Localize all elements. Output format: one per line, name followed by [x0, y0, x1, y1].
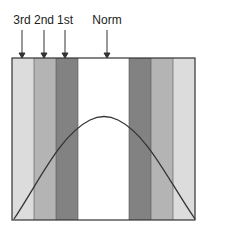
- band-2nd-left: [34, 58, 56, 220]
- bands: [12, 58, 195, 220]
- arrow-norm-icon: [104, 30, 110, 58]
- arrows: [19, 30, 110, 58]
- band-2nd-right: [151, 58, 173, 220]
- arrow-2nd-icon: [41, 30, 47, 58]
- normal-distribution-diagram: [0, 0, 234, 232]
- arrow-1st-icon: [62, 30, 68, 58]
- band-3rd-left: [12, 58, 34, 220]
- band-norm: [78, 58, 129, 220]
- arrow-3rd-icon: [19, 30, 25, 58]
- band-3rd-right: [173, 58, 195, 220]
- band-1st-right: [129, 58, 151, 220]
